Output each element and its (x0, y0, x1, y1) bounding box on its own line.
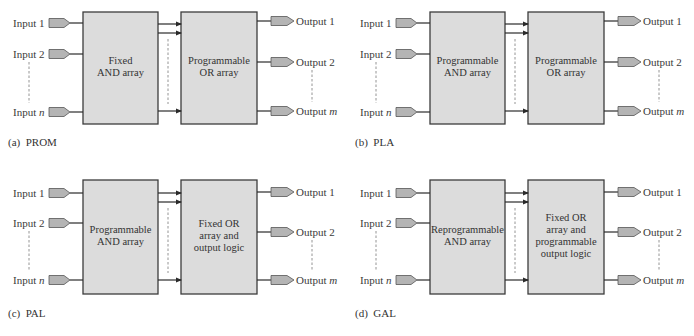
output-pin-m: Output m (257, 274, 337, 286)
and-array-label-line: Programmable (90, 224, 152, 235)
panel-caption: (c) PAL (8, 307, 46, 320)
input-label: Input 2 (360, 217, 391, 229)
or-array-label-line: programmable (535, 236, 597, 247)
output-pin-2: Output 2 (604, 226, 682, 238)
output-pin-m: Output m (257, 105, 337, 117)
or-array-label-line: Fixed OR (545, 212, 586, 223)
input-label: Input 2 (360, 48, 391, 60)
and-array-label-line: AND array (97, 67, 145, 78)
input-buffer-icon (49, 189, 70, 198)
input-label: Input n (360, 274, 392, 286)
input-buffer-icon (49, 219, 70, 228)
input-pin-1: Input 1 (360, 17, 430, 29)
input-label: Input 2 (13, 48, 44, 60)
input-pin-2: Input 2 (13, 48, 83, 60)
pld-diagram-pla: ProgrammableAND arrayProgrammableOR arra… (347, 0, 694, 168)
panel-pal: ProgrammableAND arrayFixed ORarray andou… (0, 168, 347, 336)
input-label: Input 1 (360, 17, 391, 29)
output-label: Output 1 (643, 186, 682, 198)
input-buffer-icon (396, 19, 417, 28)
output-buffer-icon (271, 276, 294, 285)
output-buffer-icon (271, 58, 294, 67)
input-pin-n: Input n (360, 274, 430, 286)
input-buffer-icon (49, 50, 70, 59)
output-label: Output 2 (643, 226, 682, 238)
input-buffer-icon (396, 108, 417, 117)
output-label: Output m (296, 105, 337, 117)
output-label: Output 2 (296, 226, 335, 238)
input-buffer-icon (49, 276, 70, 285)
output-label: Output 1 (643, 15, 682, 27)
pld-diagram-gal: ReprogrammableAND arrayFixed ORarray and… (347, 168, 694, 336)
pld-diagram-prom: FixedAND arrayProgrammableOR arrayInput … (0, 0, 347, 168)
output-label: Output m (643, 274, 684, 286)
and-array-label-line: Fixed (109, 55, 134, 66)
or-array-label-line: OR array (547, 67, 587, 78)
panel-caption: (d) GAL (355, 307, 396, 320)
output-pin-2: Output 2 (257, 56, 335, 68)
input-label: Input 1 (360, 187, 391, 199)
panel-gal: ReprogrammableAND arrayFixed ORarray and… (347, 168, 694, 336)
output-buffer-icon (618, 17, 641, 26)
input-pin-2: Input 2 (360, 217, 430, 229)
input-buffer-icon (396, 50, 417, 59)
output-pin-1: Output 1 (604, 186, 682, 198)
output-pin-2: Output 2 (257, 226, 335, 238)
or-array-label-line: Fixed OR (198, 218, 239, 229)
input-label: Input n (360, 106, 392, 118)
panel-prom: FixedAND arrayProgrammableOR arrayInput … (0, 0, 347, 168)
and-array-label-line: AND array (97, 236, 145, 247)
output-buffer-icon (271, 107, 294, 116)
input-pin-n: Input n (13, 106, 83, 118)
output-buffer-icon (271, 228, 294, 237)
panel-caption: (a) PROM (8, 136, 57, 149)
panel-pla: ProgrammableAND arrayProgrammableOR arra… (347, 0, 694, 168)
or-array-label-line: Programmable (535, 55, 597, 66)
output-label: Output m (296, 274, 337, 286)
input-buffer-icon (396, 189, 417, 198)
or-array-label-line: OR array (200, 67, 240, 78)
input-pin-2: Input 2 (360, 48, 430, 60)
input-label: Input n (13, 274, 45, 286)
output-label: Output 2 (296, 56, 335, 68)
output-buffer-icon (271, 188, 294, 197)
input-label: Input n (13, 106, 45, 118)
input-label: Input 1 (13, 187, 44, 199)
input-label: Input 2 (13, 217, 44, 229)
input-pin-1: Input 1 (13, 17, 83, 29)
input-label: Input 1 (13, 17, 44, 29)
and-array-label-line: AND array (444, 236, 492, 247)
or-array-label-line: output logic (194, 242, 245, 253)
input-pin-n: Input n (360, 106, 430, 118)
input-buffer-icon (396, 276, 417, 285)
or-array-label-line: array and (199, 230, 239, 241)
or-array-label-line: output logic (541, 248, 592, 259)
input-buffer-icon (49, 108, 70, 117)
panel-caption: (b) PLA (355, 136, 394, 149)
output-buffer-icon (618, 228, 641, 237)
and-array-label-line: Programmable (437, 55, 499, 66)
output-label: Output 2 (643, 56, 682, 68)
input-buffer-icon (396, 219, 417, 228)
or-array-label-line: array and (546, 224, 586, 235)
or-array-label-line: Programmable (188, 55, 250, 66)
input-pin-1: Input 1 (13, 187, 83, 199)
output-buffer-icon (618, 107, 641, 116)
output-label: Output m (643, 105, 684, 117)
output-pin-2: Output 2 (604, 56, 682, 68)
output-pin-m: Output m (604, 274, 684, 286)
input-pin-n: Input n (13, 274, 83, 286)
output-pin-1: Output 1 (604, 15, 682, 27)
input-pin-2: Input 2 (13, 217, 83, 229)
output-pin-1: Output 1 (257, 15, 335, 27)
input-pin-1: Input 1 (360, 187, 430, 199)
and-array-label-line: Reprogrammable (431, 224, 504, 235)
output-buffer-icon (618, 276, 641, 285)
output-buffer-icon (618, 58, 641, 67)
output-buffer-icon (271, 17, 294, 26)
input-buffer-icon (49, 19, 70, 28)
pld-diagram-pal: ProgrammableAND arrayFixed ORarray andou… (0, 168, 347, 336)
and-array-label-line: AND array (444, 67, 492, 78)
output-pin-m: Output m (604, 105, 684, 117)
output-label: Output 1 (296, 15, 335, 27)
